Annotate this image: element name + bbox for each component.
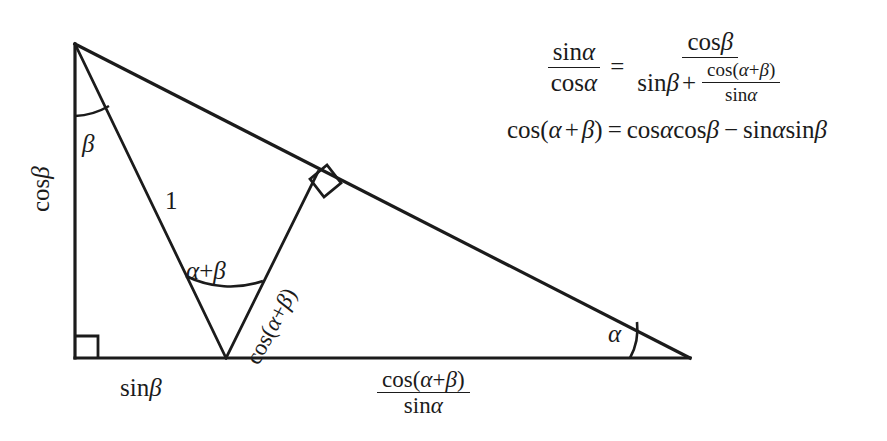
fraction-numerator: cos(α+β) bbox=[702, 59, 780, 83]
alpha-symbol: α bbox=[739, 59, 749, 80]
alpha-symbol: α bbox=[747, 84, 757, 105]
sin-text: sin bbox=[637, 69, 666, 96]
denominator-first-term: sinβ bbox=[637, 69, 679, 97]
lparen-symbol: ( bbox=[540, 116, 548, 143]
fraction-denominator: sinβ + cos(α+β) sinα bbox=[632, 58, 788, 106]
rparen-symbol: ) bbox=[594, 116, 602, 143]
beta-symbol: β bbox=[213, 257, 225, 284]
alpha-symbol: α bbox=[584, 69, 597, 96]
plus-symbol: + bbox=[565, 116, 579, 143]
rparen-symbol: ) bbox=[769, 59, 775, 80]
fraction-numerator: cos(α+β) bbox=[377, 368, 470, 393]
alpha-symbol: α bbox=[431, 393, 443, 418]
label-base-right-fraction: cos(α+β) sinα bbox=[374, 368, 473, 417]
label-unit-side: 1 bbox=[165, 188, 178, 213]
fraction-numerator: cosβ bbox=[682, 28, 738, 58]
plus-symbol: + bbox=[682, 69, 696, 97]
minus-symbol: − bbox=[724, 116, 738, 144]
rparen-symbol: ) bbox=[457, 367, 465, 392]
equations-block: sinα cosα = cosβ sinβ + bbox=[452, 28, 882, 144]
base-right-fraction: cos(α+β) sinα bbox=[377, 368, 470, 417]
sin-text: sin bbox=[120, 374, 149, 401]
beta-symbol: β bbox=[815, 116, 827, 143]
cos-text: cos bbox=[507, 116, 540, 143]
beta-symbol: β bbox=[667, 69, 679, 96]
cos-text: cos bbox=[687, 28, 720, 55]
equation-1: sinα cosα = cosβ sinβ + bbox=[452, 28, 882, 106]
alpha-symbol: α bbox=[660, 116, 673, 143]
equation-2: cos(α+β) = cosαcosβ − sinαsinβ bbox=[452, 116, 882, 144]
alpha-symbol: α bbox=[420, 367, 432, 392]
cos-text: cos bbox=[627, 116, 660, 143]
cos-text: cos bbox=[27, 179, 54, 212]
sin-text: sin bbox=[404, 393, 431, 418]
equation-1-lhs-fraction: sinα cosα bbox=[546, 38, 602, 97]
cos-text: cos bbox=[551, 69, 584, 96]
equation-1-rhs-fraction: cosβ sinβ + cos(α+β) sinα bbox=[632, 28, 788, 106]
label-left-side: cosβ bbox=[28, 166, 53, 212]
fraction-denominator: sinα bbox=[399, 393, 448, 417]
label-apex-angle: β bbox=[82, 131, 94, 156]
alpha-symbol: α bbox=[582, 38, 595, 65]
cos-text: cos bbox=[673, 116, 706, 143]
plus-symbol: + bbox=[749, 59, 760, 80]
unit-segment-line bbox=[75, 44, 226, 358]
sin-text: sin bbox=[725, 84, 747, 105]
alpha-symbol: α bbox=[549, 116, 562, 143]
plus-symbol: + bbox=[199, 257, 213, 284]
beta-symbol: β bbox=[445, 367, 456, 392]
fraction-denominator: cosα bbox=[546, 68, 602, 97]
sin-text: sin bbox=[743, 116, 772, 143]
label-base-left: sinβ bbox=[120, 375, 162, 400]
beta-symbol: β bbox=[707, 116, 719, 143]
sin-text: sin bbox=[553, 38, 582, 65]
cos-text: cos bbox=[707, 59, 732, 80]
sin-text: sin bbox=[785, 116, 814, 143]
equation-2-lhs: cos(α+β) bbox=[507, 116, 603, 144]
fraction-numerator: sinα bbox=[548, 38, 600, 68]
alpha-symbol: α bbox=[772, 116, 785, 143]
beta-symbol: β bbox=[582, 116, 594, 143]
equation-2-rhs-term-1: cosαcosβ bbox=[627, 116, 719, 144]
beta-symbol: β bbox=[721, 28, 733, 55]
alpha-symbol: α bbox=[186, 257, 199, 284]
equation-2-rhs-term-2: sinαsinβ bbox=[743, 116, 827, 144]
beta-symbol: β bbox=[759, 59, 768, 80]
right-angle-marker-corner bbox=[76, 336, 98, 358]
beta-symbol: β bbox=[27, 166, 54, 178]
label-right-angle-alpha: α bbox=[608, 321, 621, 346]
angle-arc-beta bbox=[75, 106, 109, 116]
cos-text: cos bbox=[382, 367, 413, 392]
equation-1-nested-fraction: cos(α+β) sinα bbox=[702, 59, 780, 106]
label-inner-angle: α+β bbox=[186, 258, 226, 283]
plus-symbol: + bbox=[432, 367, 445, 392]
equals-symbol: = bbox=[608, 116, 622, 144]
figure-canvas: cosβ sinβ 1 α+β β α cos(α+β) cos(α+β) si… bbox=[0, 0, 887, 441]
equals-symbol: = bbox=[610, 53, 624, 81]
beta-symbol: β bbox=[149, 374, 161, 401]
fraction-denominator: sinα bbox=[720, 83, 762, 106]
